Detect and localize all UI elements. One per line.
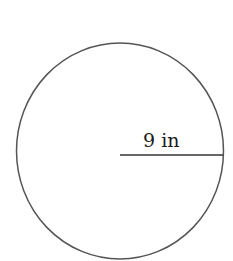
circle-diagram: 9 in bbox=[0, 0, 233, 261]
circle-outline bbox=[17, 43, 224, 259]
radius-label: 9 in bbox=[143, 129, 179, 151]
